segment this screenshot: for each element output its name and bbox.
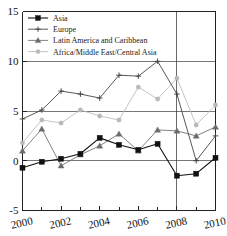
datapoint-2010-triangle-marker — [213, 124, 219, 129]
y-tick-label-15: 15 — [8, 5, 20, 17]
datapoint-2001-square-marker — [39, 159, 44, 164]
legend-entry-1[interactable]: Europe — [28, 25, 77, 34]
datapoint-2002-circle-marker — [59, 121, 63, 125]
datapoint-2008-circle-marker — [175, 76, 179, 80]
datapoint-2007-square-marker — [155, 141, 160, 146]
y-tick-label-5: 5 — [13, 105, 19, 117]
datapoint-2002-triangle-marker — [58, 163, 64, 168]
legend-entry-0[interactable]: Asia — [28, 14, 68, 23]
legend-entry-3[interactable]: Africa/Middle East/Central Asia — [28, 48, 157, 57]
datapoint-2005-triangle-marker — [116, 131, 122, 136]
datapoint-2009-circle-marker — [194, 123, 198, 127]
y-axis-tick-labels: -5051015 — [8, 5, 20, 216]
datapoint-2005-square-marker — [117, 142, 122, 147]
datapoint-2006-circle-marker — [136, 85, 140, 89]
datapoint-2009-square-marker — [194, 171, 199, 176]
datapoint-2006-square-marker — [136, 147, 141, 152]
legend-label-3: Africa/Middle East/Central Asia — [53, 48, 157, 57]
datapoint-2007-circle-marker — [155, 97, 159, 101]
x-tick-label-2004: 2004 — [87, 214, 112, 230]
datapoint-2004-triangle-marker — [97, 143, 103, 148]
legend-entry-2[interactable]: Latin America and Caribbean — [28, 36, 147, 45]
legend-marker-3-circle-marker — [36, 50, 40, 54]
series-asia — [20, 135, 218, 178]
x-tick-label-2000: 2000 — [10, 214, 35, 230]
y-tick-label-10: 10 — [8, 55, 20, 67]
datapoint-2008-square-marker — [174, 173, 179, 178]
datapoint-2005-circle-marker — [117, 118, 121, 122]
x-tick-label-2002: 2002 — [48, 214, 72, 230]
datapoint-2007-triangle-marker — [155, 127, 161, 132]
legend-label-2: Latin America and Caribbean — [53, 36, 147, 45]
datapoint-2003-circle-marker — [78, 108, 82, 112]
datapoint-2000-square-marker — [20, 165, 25, 170]
datapoint-2002-square-marker — [59, 156, 64, 161]
datapoint-2010-square-marker — [213, 155, 218, 160]
datapoint-2004-circle-marker — [98, 114, 102, 118]
y-tick-label-0: 0 — [13, 155, 19, 167]
datapoint-2010-circle-marker — [213, 103, 217, 107]
datapoint-2001-triangle-marker — [39, 126, 45, 131]
line-chart: -5051015 200020022004200620082010 AsiaEu… — [0, 0, 227, 236]
legend-label-1: Europe — [53, 25, 77, 34]
data-series-group — [20, 58, 219, 178]
x-tick-label-2006: 2006 — [125, 214, 150, 230]
x-tick-label-2008: 2008 — [164, 214, 189, 230]
chart-container: -5051015 200020022004200620082010 AsiaEu… — [0, 0, 227, 236]
legend-label-0: Asia — [53, 14, 68, 23]
x-axis-tick-labels: 200020022004200620082010 — [10, 214, 227, 230]
legend-marker-0-square-marker — [36, 16, 41, 21]
datapoint-2004-square-marker — [97, 135, 102, 140]
datapoint-2003-square-marker — [78, 151, 83, 156]
legend: AsiaEuropeLatin America and CaribbeanAfr… — [28, 14, 157, 57]
datapoint-2000-circle-marker — [20, 141, 24, 145]
y-tick-label--5: -5 — [9, 204, 19, 216]
x-tick-label-2010: 2010 — [203, 214, 227, 230]
datapoint-2001-circle-marker — [40, 118, 44, 122]
